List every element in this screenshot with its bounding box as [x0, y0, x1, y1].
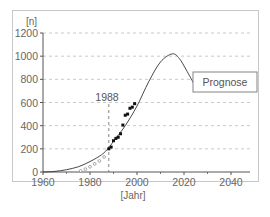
y-tick-label: 1200	[15, 27, 39, 39]
data-point-open	[103, 156, 106, 159]
prognose-label: Prognose	[203, 76, 248, 88]
data-point-filled	[110, 146, 113, 149]
data-point-open	[98, 160, 101, 163]
data-point-open	[93, 162, 96, 165]
x-axis-tick-labels: 19601980200020202040	[31, 176, 243, 188]
x-axis-title: [Jahr]	[120, 190, 145, 201]
vline-label: 1988	[95, 91, 119, 103]
x-tick-label: 2020	[172, 176, 196, 188]
x-tick-label: 2040	[219, 176, 243, 188]
data-point-filled	[131, 106, 134, 109]
y-axis-title: [n]	[26, 16, 37, 27]
data-series	[43, 54, 193, 172]
data-point-filled	[117, 136, 120, 139]
data-point-filled	[126, 113, 129, 116]
data-point-open	[79, 169, 82, 172]
x-tick-label: 2000	[125, 176, 149, 188]
y-tick-label: 200	[20, 143, 38, 155]
x-tick-label: 1960	[31, 176, 55, 188]
axes	[40, 33, 250, 175]
data-point-filled	[119, 132, 122, 135]
data-point-open	[84, 168, 87, 171]
data-point-filled	[121, 124, 124, 127]
data-point-filled	[133, 102, 136, 105]
y-tick-label: 600	[20, 97, 38, 109]
y-tick-label: 400	[20, 120, 38, 132]
y-tick-label: 1000	[15, 50, 39, 62]
data-point-open	[89, 165, 92, 168]
y-axis-tick-labels: 020040060080010001200	[15, 27, 39, 178]
x-tick-label: 1980	[78, 176, 102, 188]
chart-canvas: 020040060080010001200 196019802000202020…	[0, 0, 270, 217]
prognosis-curve	[43, 54, 193, 172]
y-tick-label: 800	[20, 73, 38, 85]
